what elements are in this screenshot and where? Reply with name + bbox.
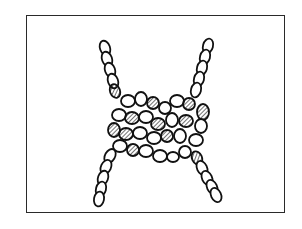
rope-end-top-right	[189, 37, 215, 98]
rope-end-bottom-right	[190, 150, 224, 204]
rope-knot-illustration	[0, 0, 302, 229]
rope-end-top-left	[98, 39, 122, 99]
rope-end-bottom-left	[93, 147, 118, 207]
